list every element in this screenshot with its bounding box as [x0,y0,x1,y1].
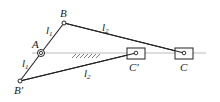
svg-text:l2: l2 [84,67,91,81]
label-a: A [31,38,39,50]
svg-text:l2: l2 [102,21,109,35]
pivot-a-icon [39,51,42,54]
label-c-prime: C′ [129,61,139,73]
joint-c [182,51,186,55]
label-b: B [60,7,67,19]
label-l1-lower: l1 [22,57,29,71]
ground-hatching [72,54,100,58]
joint-b-prime [18,79,22,83]
link-l1-upper [41,23,64,53]
label-l2-upper: l2 [102,21,109,35]
label-l1-upper: l1 [46,24,53,38]
joint-b [62,21,66,25]
svg-text:l1: l1 [46,24,53,38]
label-l2-lower: l2 [84,67,91,81]
svg-text:l1: l1 [22,57,29,71]
mechanism-diagram: A B B′ C′ C l1 l2 l1 l2 [0,0,220,102]
label-c: C [180,61,188,73]
joint-c-prime [134,51,138,55]
label-b-prime: B′ [14,84,24,96]
